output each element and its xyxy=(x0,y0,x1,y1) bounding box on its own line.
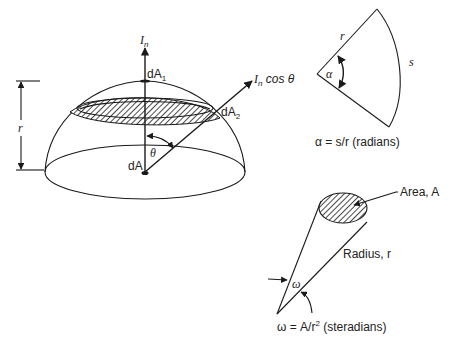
label-dA: dA xyxy=(128,159,143,173)
label-solid-radius: Radius, r xyxy=(343,247,391,261)
solid-angle-formula: ω = A/r2 (steradians) xyxy=(277,319,387,334)
label-dA2: dA2 xyxy=(221,105,241,121)
alpha-angle-arc xyxy=(338,56,343,88)
label-normal-intensity: In xyxy=(139,33,149,49)
label-plane-radius: r xyxy=(340,29,345,43)
label-omega: ω xyxy=(292,277,300,291)
label-theta: θ xyxy=(150,146,156,160)
hemisphere-figure: In dA1 dA2 In cos θ θ dA r xyxy=(16,33,295,199)
label-dA1: dA1 xyxy=(147,67,167,83)
area-A-disk xyxy=(319,193,367,223)
label-oblique-intensity: In cos θ xyxy=(253,72,295,88)
solid-angle-figure: Area, A Radius, r ω ω = A/r2 (steradians… xyxy=(268,185,439,334)
label-area: Area, A xyxy=(400,185,439,199)
plane-angle-figure: r s α α = s/r (radians) xyxy=(315,9,414,149)
arc-s xyxy=(377,9,400,127)
label-radius: r xyxy=(18,121,23,135)
label-arc-s: s xyxy=(409,55,414,69)
plane-angle-formula: α = s/r (radians) xyxy=(315,135,400,149)
label-alpha: α xyxy=(326,67,333,81)
radiometry-diagram: In dA1 dA2 In cos θ θ dA r r s α α = s/r… xyxy=(0,0,453,342)
oblique-intensity-arrow xyxy=(145,81,252,172)
